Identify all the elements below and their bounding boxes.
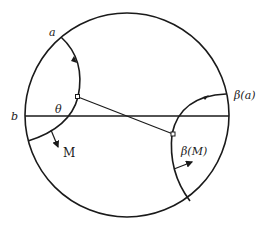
normal-arrow-M bbox=[51, 130, 58, 147]
label-b: b bbox=[11, 110, 18, 123]
hyperbolic-disk-diagram: a b θ M β(a) β(M) bbox=[0, 0, 268, 229]
label-beta-M: β(M) bbox=[180, 145, 207, 158]
label-beta-a: β(a) bbox=[233, 89, 256, 102]
right-angle-marker-right bbox=[171, 132, 175, 136]
right-angle-marker-left bbox=[76, 95, 80, 99]
label-a: a bbox=[49, 26, 56, 39]
label-M: M bbox=[63, 146, 75, 160]
normal-arrow-beta-M bbox=[174, 162, 192, 169]
orientation-arrow-beta-M bbox=[203, 95, 209, 100]
label-theta: θ bbox=[55, 103, 62, 116]
geodesic-M bbox=[28, 37, 80, 141]
